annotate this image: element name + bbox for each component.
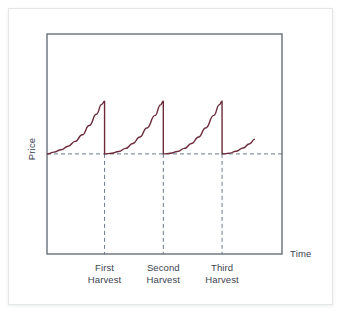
tick-label-line: First bbox=[95, 262, 114, 273]
tick-label-line: Harvest bbox=[205, 274, 239, 285]
tick-label-line: Harvest bbox=[88, 274, 122, 285]
plot-background bbox=[47, 34, 282, 254]
x-axis-title: Time bbox=[290, 248, 312, 259]
x-axis-tick-label-group: FirstHarvestSecondHarvestThirdHarvest bbox=[88, 262, 239, 285]
x-axis-tick-label-2: SecondHarvest bbox=[147, 262, 181, 285]
tick-label-line: Third bbox=[211, 262, 233, 273]
x-axis-tick-label-3: ThirdHarvest bbox=[205, 262, 239, 285]
x-axis-tick-label-1: FirstHarvest bbox=[88, 262, 122, 285]
tick-label-line: Harvest bbox=[147, 274, 181, 285]
tick-label-line: Second bbox=[147, 262, 180, 273]
figure-card: Price Time FirstHarvestSecondHarvestThir… bbox=[8, 8, 333, 305]
y-axis-title: Price bbox=[26, 138, 37, 161]
price-time-chart: Price Time FirstHarvestSecondHarvestThir… bbox=[9, 9, 334, 306]
